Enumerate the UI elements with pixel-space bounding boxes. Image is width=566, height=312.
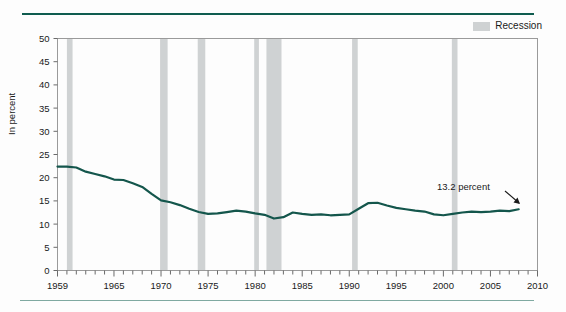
value-annotation: 13.2 percent	[437, 181, 520, 204]
bottom-divider-rule	[20, 300, 534, 301]
recession-2001	[452, 39, 458, 271]
plot-frame	[58, 39, 538, 271]
y-tick-label: 5	[44, 242, 49, 253]
annotation-label: 13.2 percent	[437, 181, 490, 192]
y-tick-label: 50	[39, 33, 50, 44]
recession-bands	[67, 39, 458, 271]
data-line	[58, 167, 519, 219]
recession-1981	[266, 39, 281, 271]
x-tick-label: 1965	[103, 280, 124, 291]
y-tick-label: 45	[39, 56, 50, 67]
x-tick-label: 2000	[433, 280, 454, 291]
x-tick-label: 1959	[47, 280, 68, 291]
recession-1960	[67, 39, 73, 271]
x-tick-label: 1995	[386, 280, 407, 291]
x-axis-ticks: 1959196519701975198019851990199520002005…	[47, 271, 548, 291]
y-tick-label: 30	[39, 126, 50, 137]
x-tick-label: 1985	[292, 280, 313, 291]
x-tick-label: 1990	[339, 280, 360, 291]
figure-container: Recession In percent 0510152025303540455…	[0, 0, 566, 312]
x-tick-label: 1975	[198, 280, 219, 291]
y-tick-label: 35	[39, 103, 50, 114]
y-tick-label: 20	[39, 172, 50, 183]
y-axis-ticks: 05101520253035404550	[39, 33, 58, 276]
x-tick-label: 1980	[245, 280, 266, 291]
y-tick-label: 15	[39, 195, 50, 206]
x-tick-label: 2010	[527, 280, 548, 291]
series-line-percent	[58, 167, 519, 219]
recession-1990	[352, 39, 358, 271]
chart-canvas: 05101520253035404550 1959196519701975198…	[0, 0, 566, 312]
recession-1980	[254, 39, 259, 271]
x-tick-label: 1970	[150, 280, 171, 291]
y-tick-label: 25	[39, 149, 50, 160]
y-tick-label: 40	[39, 79, 50, 90]
y-tick-label: 10	[39, 219, 50, 230]
recession-1974	[198, 39, 206, 271]
x-tick-label: 2005	[480, 280, 501, 291]
recession-1970	[160, 39, 168, 271]
y-tick-label: 0	[44, 265, 49, 276]
